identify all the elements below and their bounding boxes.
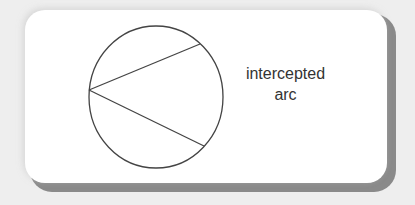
intercepted-arc-label: intercepted arc <box>228 63 343 105</box>
label-line-2: arc <box>228 84 343 105</box>
inscribed-angle-diagram <box>0 0 415 205</box>
label-line-1: intercepted <box>228 63 343 84</box>
circle <box>89 26 223 168</box>
lower-chord <box>89 90 204 146</box>
